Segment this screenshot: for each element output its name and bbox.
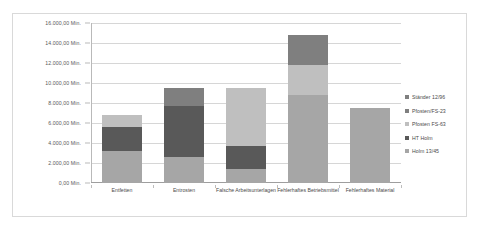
gridline (91, 63, 401, 64)
x-tick-label: Fehlerhaftes Betriebsmittel (277, 187, 339, 194)
y-tick-label: 14.000,00 Min. (45, 40, 81, 46)
legend-item[interactable]: Ständer 12/96 (405, 94, 481, 100)
y-tick-label: 16.000,00 Min. (45, 20, 81, 26)
bar-stack[interactable] (288, 35, 328, 183)
y-tick-mark (85, 63, 90, 64)
legend-swatch-icon (405, 122, 409, 126)
bar-stack[interactable] (164, 88, 204, 183)
legend-item[interactable]: HT Holm (405, 135, 481, 141)
legend-item[interactable]: Pfosten FS-63 (405, 121, 481, 127)
bar-segment[interactable] (288, 35, 328, 65)
legend-swatch-icon (405, 149, 409, 153)
legend-label: Pfosten/FS-23 (412, 108, 446, 114)
y-tick-mark (85, 163, 90, 164)
legend-swatch-icon (405, 109, 409, 113)
bar-segment[interactable] (102, 151, 142, 183)
y-tick-mark (85, 103, 90, 104)
y-tick-mark (85, 83, 90, 84)
bar-stack[interactable] (226, 88, 266, 183)
gridline (91, 83, 401, 84)
legend-label: Ständer 12/96 (412, 94, 445, 100)
bar-segment[interactable] (288, 95, 328, 183)
y-tick-mark (85, 123, 90, 124)
legend-item[interactable]: Holm 13/45 (405, 148, 481, 154)
bar-stack[interactable] (102, 115, 142, 183)
legend-label: HT Holm (412, 135, 433, 141)
gridline (91, 23, 401, 24)
bar-segment[interactable] (350, 108, 390, 183)
chart-legend: Ständer 12/96Pfosten/FS-23Pfosten FS-63H… (405, 94, 481, 162)
bar-segment[interactable] (164, 88, 204, 106)
bar-segment[interactable] (102, 115, 142, 127)
legend-item[interactable]: Pfosten/FS-23 (405, 108, 481, 114)
gridline (91, 43, 401, 44)
bar-segment[interactable] (164, 106, 204, 157)
y-tick-label: 10.000,00 Min. (45, 80, 81, 86)
y-tick-label: 4.000,00 Min. (48, 140, 81, 146)
chart-frame: 0,00 Min.2.000,00 Min.4.000,00 Min.6.000… (12, 13, 467, 217)
legend-swatch-icon (405, 95, 409, 99)
x-tick-label: Entrosten (153, 187, 215, 194)
y-tick-mark (85, 43, 90, 44)
bar-segment[interactable] (226, 169, 266, 183)
x-tick-label: Entfetten (91, 187, 153, 194)
y-tick-mark (85, 143, 90, 144)
bar-segment[interactable] (164, 157, 204, 183)
y-tick-label: 12.000,00 Min. (45, 60, 81, 66)
legend-swatch-icon (405, 136, 409, 140)
bar-segment[interactable] (288, 65, 328, 95)
bar-stack[interactable] (350, 108, 390, 183)
legend-label: Pfosten FS-63 (412, 121, 446, 127)
bar-segment[interactable] (226, 88, 266, 146)
y-axis: 0,00 Min.2.000,00 Min.4.000,00 Min.6.000… (13, 23, 91, 183)
bar-segment[interactable] (102, 127, 142, 151)
x-tick-label: Fehlerhaftes Material (339, 187, 401, 194)
y-tick-mark (85, 23, 90, 24)
y-tick-label: 0,00 Min. (59, 180, 81, 186)
legend-label: Holm 13/45 (412, 148, 439, 154)
y-tick-label: 2.000,00 Min. (48, 160, 81, 166)
plot-area (91, 23, 401, 183)
bar-segment[interactable] (226, 146, 266, 169)
x-axis: EntfettenEntrostenFalsche Arbeitsunterla… (91, 185, 401, 211)
x-tick-mark (401, 185, 402, 188)
y-axis-line (91, 23, 92, 183)
x-tick-label: Falsche Arbeitsunterlagen (215, 187, 277, 194)
y-tick-label: 8.000,00 Min. (48, 100, 81, 106)
y-tick-label: 6.000,00 Min. (48, 120, 81, 126)
y-tick-mark (85, 183, 90, 184)
